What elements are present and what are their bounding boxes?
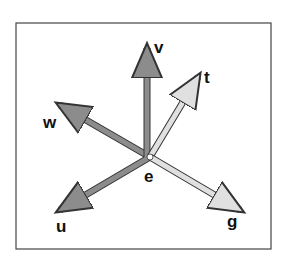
label-v: v (154, 38, 164, 57)
label-e: e (144, 167, 153, 186)
camera-frame-diagram: v t w u g e (0, 0, 282, 256)
label-u: u (56, 217, 66, 236)
label-t: t (204, 68, 210, 87)
label-g: g (227, 212, 237, 231)
origin-point (147, 154, 153, 160)
label-w: w (42, 113, 57, 132)
